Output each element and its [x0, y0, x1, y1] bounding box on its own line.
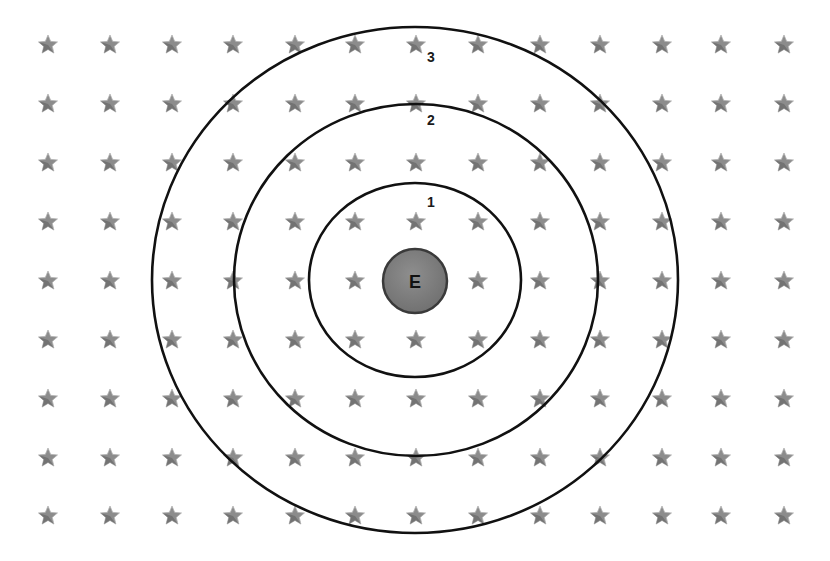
star-icon	[530, 330, 549, 348]
star-icon	[711, 94, 730, 112]
star-icon	[652, 35, 671, 53]
star-icon	[285, 448, 304, 466]
star-icon	[590, 448, 609, 466]
star-icon	[711, 271, 730, 289]
star-icon	[223, 212, 242, 230]
star-icon	[38, 212, 57, 230]
star-icon	[406, 35, 425, 53]
star-icon	[652, 389, 671, 407]
star-icon	[652, 94, 671, 112]
star-icon	[345, 212, 364, 230]
star-icon	[590, 271, 609, 289]
star-icon	[162, 330, 181, 348]
star-icon	[590, 506, 609, 524]
star-icon	[468, 212, 487, 230]
star-icon	[162, 94, 181, 112]
star-icon	[468, 389, 487, 407]
ring-label-3: 3	[427, 49, 435, 65]
star-icon	[711, 330, 730, 348]
star-icon	[345, 448, 364, 466]
star-icon	[285, 330, 304, 348]
star-icon	[100, 212, 119, 230]
star-icon	[162, 448, 181, 466]
star-icon	[100, 153, 119, 171]
star-icon	[223, 330, 242, 348]
star-icon	[590, 94, 609, 112]
star-icon	[774, 448, 793, 466]
star-icon	[38, 271, 57, 289]
star-icon	[468, 35, 487, 53]
star-icon	[223, 153, 242, 171]
star-icon	[774, 94, 793, 112]
star-icon	[530, 448, 549, 466]
star-icon	[711, 35, 730, 53]
star-icon	[38, 448, 57, 466]
star-icon	[530, 271, 549, 289]
star-icon	[711, 506, 730, 524]
star-icon	[162, 212, 181, 230]
star-icon	[530, 506, 549, 524]
star-icon	[100, 448, 119, 466]
star-icon	[285, 94, 304, 112]
star-icon	[711, 153, 730, 171]
star-icon	[590, 153, 609, 171]
star-icon	[774, 212, 793, 230]
star-icon	[345, 330, 364, 348]
star-icon	[162, 35, 181, 53]
star-icon	[711, 389, 730, 407]
star-icon	[223, 506, 242, 524]
center-body: E	[383, 249, 447, 313]
star-icon	[223, 35, 242, 53]
star-icon	[468, 448, 487, 466]
star-icon	[406, 212, 425, 230]
star-icon	[406, 330, 425, 348]
star-icon	[345, 389, 364, 407]
star-icon	[100, 271, 119, 289]
star-icon	[345, 153, 364, 171]
star-icon	[468, 153, 487, 171]
star-icon	[530, 94, 549, 112]
star-icon	[468, 271, 487, 289]
star-icon	[38, 153, 57, 171]
star-icon	[38, 330, 57, 348]
star-icon	[285, 271, 304, 289]
star-icon	[590, 212, 609, 230]
star-icon	[406, 506, 425, 524]
center-label: E	[409, 272, 421, 292]
star-icon	[774, 271, 793, 289]
star-icon	[468, 94, 487, 112]
star-icon	[652, 448, 671, 466]
star-icon	[652, 271, 671, 289]
orbit-diagram: 123 E	[0, 0, 830, 561]
star-icon	[774, 506, 793, 524]
star-icon	[774, 330, 793, 348]
star-icon	[345, 35, 364, 53]
star-icon	[285, 212, 304, 230]
ring-label-1: 1	[427, 194, 435, 210]
star-icon	[38, 94, 57, 112]
star-icon	[590, 330, 609, 348]
star-icon	[530, 212, 549, 230]
star-icon	[406, 389, 425, 407]
star-icon	[652, 506, 671, 524]
star-icon	[345, 506, 364, 524]
star-icon	[100, 94, 119, 112]
star-icon	[162, 506, 181, 524]
star-icon	[652, 153, 671, 171]
star-icon	[711, 448, 730, 466]
star-icon	[38, 506, 57, 524]
star-icon	[590, 389, 609, 407]
star-icon	[100, 330, 119, 348]
star-icon	[38, 389, 57, 407]
star-icon	[590, 35, 609, 53]
star-icon	[711, 212, 730, 230]
star-icon	[530, 35, 549, 53]
star-icon	[100, 35, 119, 53]
star-icon	[223, 389, 242, 407]
star-icon	[468, 506, 487, 524]
star-icon	[162, 271, 181, 289]
star-icon	[774, 153, 793, 171]
star-icon	[345, 94, 364, 112]
star-icon	[100, 506, 119, 524]
star-icon	[774, 35, 793, 53]
